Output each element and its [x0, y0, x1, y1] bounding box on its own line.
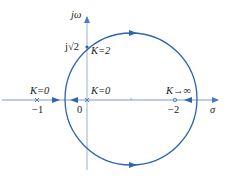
pole-left-value-label: −1 [32, 104, 43, 115]
root-locus-diagram: jω σ j√2 K=2 K=0 −1 K=0 0 K→∞ −2 [0, 0, 230, 181]
origin-value-label: 0 [77, 104, 82, 115]
arrow-bottom-icon [129, 162, 137, 168]
arrow-middle-segment-icon [70, 97, 78, 103]
y-axis-label: jω [69, 9, 81, 20]
origin-k-label: K=0 [90, 85, 111, 96]
arrow-right-segment-icon [184, 97, 192, 103]
zero-k-label: K→∞ [165, 85, 191, 96]
jw-crossing-point [85, 45, 88, 48]
jw-crossing-label: j√2 [64, 41, 79, 52]
x-axis-label: σ [210, 104, 216, 115]
arrow-left-segment-icon [52, 97, 60, 103]
jw-crossing-k-label: K=2 [90, 45, 111, 56]
pole-left-k-label: K=0 [29, 85, 50, 96]
zero-value-label: −2 [168, 104, 179, 115]
arrow-top-icon [129, 30, 137, 36]
